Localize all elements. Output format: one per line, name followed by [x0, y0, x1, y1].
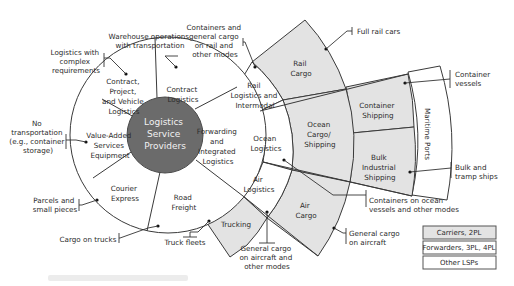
annotation-container-vessels: Container vessels — [455, 70, 492, 88]
annotation-complex: Logistics with complex requirements — [51, 48, 102, 75]
annotation-parcels: Parcels and small pieces — [33, 196, 78, 214]
annotation-full-rail: Full rail cars — [357, 27, 401, 36]
annotation-truck-fleets: Truck fleets — [163, 238, 205, 247]
label-contract-logistics: Contract Logistics — [166, 85, 199, 104]
legend-label-forwarders: Forwarders, 3PL, 4PL — [422, 244, 495, 252]
annotation-warehouse: Warehouse operations with transportation — [109, 32, 192, 50]
annotation-general-aircraft-other: General cargo on aircraft and other mode… — [239, 244, 294, 271]
center-line-1: Logistics — [144, 117, 183, 127]
annotation-general-aircraft: General cargo on aircraft — [349, 229, 402, 247]
legend: Carriers, 2PL Forwarders, 3PL, 4PL Other… — [422, 226, 496, 269]
annotation-cargo-trucks: Cargo on trucks — [60, 235, 117, 244]
center-line-2: Service — [147, 129, 181, 139]
label-road-freight: Road Freight — [172, 193, 197, 212]
label-contract-project-vehicle: Contract, Project, and Vehicle Logistics — [102, 77, 146, 116]
annotation-no-transport: No transportation (e.g., container stora… — [9, 119, 66, 155]
center-label: Logistics Service Providers — [144, 117, 186, 151]
legend-label-carriers: Carriers, 2PL — [437, 229, 482, 237]
annotation-bulk-tramp: Bulk and tramp ships — [455, 163, 498, 181]
label-ocean-cargo: Ocean Cargo/ Shipping — [304, 120, 335, 149]
center-line-3: Providers — [144, 141, 186, 151]
label-ocean-logistics: Ocean Logistics — [250, 134, 281, 153]
label-courier-express: Courier Express — [111, 184, 140, 203]
legend-label-other: Other LSPs — [440, 259, 479, 267]
label-rail-cargo: Rail Cargo — [290, 59, 311, 78]
annotation-containers-rail: Containers and general cargo on rail and… — [187, 23, 244, 59]
label-trucking: Trucking — [220, 220, 251, 229]
label-forwarding: Forwarding and Integrated Logistics — [197, 127, 239, 166]
label-container-shipping: Container Shipping — [359, 101, 396, 120]
blurred-caption — [48, 275, 188, 281]
logistics-service-providers-diagram: Logistics Service Providers Contract, Pr… — [0, 0, 514, 286]
label-maritime-ports: Maritime Ports — [423, 108, 432, 160]
